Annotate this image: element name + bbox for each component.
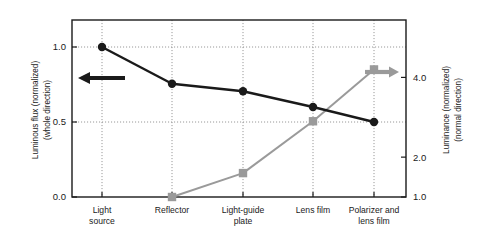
right-tick-label: 2.0 [413, 152, 426, 163]
data-point [168, 80, 176, 88]
left-axis-tick-labels: 0.00.51.0 [53, 41, 66, 202]
category-label: Lens film [296, 205, 330, 215]
data-point [239, 87, 247, 95]
category-label: source [89, 216, 115, 226]
left-tick-label: 0.0 [53, 191, 66, 202]
category-label: lens film [358, 216, 390, 226]
category-label: Polarizer and [349, 205, 400, 215]
right-tick-label: 4.0 [413, 72, 426, 83]
category-label: Light [93, 205, 112, 215]
data-point [168, 193, 176, 201]
left-tick-label: 0.5 [53, 116, 66, 127]
right-axis-title-line1: Luminance (normalized) [442, 66, 451, 154]
left-axis-title-line2: (whole direction) [43, 80, 52, 140]
right-tick-label: 1.0 [413, 191, 426, 202]
data-point [98, 43, 106, 51]
left-axis-title-line1: Luminous flux (normalized) [31, 61, 40, 160]
left-axis-title: Luminous flux (normalized) (whole direct… [31, 61, 52, 160]
category-labels: LightsourceReflectorLight-guideplateLens… [89, 205, 399, 226]
category-label: Light-guide [222, 205, 265, 215]
dual-axis-line-chart: 0.00.51.0 1.02.04.0 LightsourceReflector… [0, 0, 484, 250]
right-axis-title: Luminance (normalized) (normal direction… [442, 66, 463, 154]
right-axis-title-line2: (normal direction) [454, 78, 463, 142]
data-point [239, 169, 247, 177]
right-axis-tick-labels: 1.02.04.0 [413, 72, 426, 203]
category-label: Reflector [155, 205, 190, 215]
category-label: plate [234, 216, 253, 226]
data-point [309, 117, 317, 125]
data-point [309, 103, 317, 111]
left-tick-label: 1.0 [53, 41, 66, 52]
data-point [370, 118, 378, 126]
chart-container: 0.00.51.0 1.02.04.0 LightsourceReflector… [0, 0, 484, 250]
